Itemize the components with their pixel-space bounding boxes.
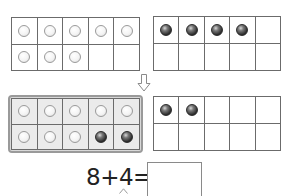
ten-frame-cell	[179, 17, 204, 44]
ten-frame-cell	[205, 17, 230, 44]
ten-frame-bottom-left-filled	[11, 98, 140, 150]
ten-frame-cell	[256, 97, 281, 124]
ten-frame-cell	[256, 44, 281, 71]
ten-frame-cell	[63, 18, 89, 45]
ten-frame-cell	[63, 45, 89, 72]
white-counter-icon	[69, 105, 81, 117]
ten-frame-cell	[179, 124, 204, 151]
white-counter-icon	[44, 25, 56, 37]
answer-input-box[interactable]	[147, 162, 202, 196]
ten-frame-cell	[114, 18, 140, 45]
white-counter-icon	[18, 105, 30, 117]
ten-frame-cell	[230, 17, 255, 44]
white-counter-icon	[44, 131, 56, 143]
ten-frame-cell	[38, 99, 64, 125]
ten-frame-cell	[89, 18, 115, 45]
equation-text: 8+4=	[86, 164, 152, 190]
dark-counter-icon	[211, 24, 223, 36]
ten-frame-cell	[114, 99, 140, 125]
ten-frame-cell	[205, 124, 230, 151]
ten-frame-cell	[179, 44, 204, 71]
white-counter-icon	[69, 25, 81, 37]
dark-counter-icon	[186, 104, 198, 116]
ten-frame-cell	[89, 99, 115, 125]
ten-frame-cell	[154, 17, 179, 44]
dark-counter-icon	[236, 24, 248, 36]
white-counter-icon	[18, 25, 30, 37]
down-arrow-icon	[137, 74, 151, 92]
dark-counter-icon	[160, 104, 172, 116]
ten-frame-cell	[256, 17, 281, 44]
dark-counter-icon	[95, 131, 107, 143]
ten-frame-cell	[154, 124, 179, 151]
white-counter-icon	[69, 51, 81, 63]
dark-counter-icon	[121, 131, 133, 143]
ten-frame-cell	[12, 45, 38, 72]
ten-frame-cell	[12, 99, 38, 125]
ten-frame-cell	[12, 18, 38, 45]
white-counter-icon	[121, 25, 133, 37]
ten-frame-cell	[230, 97, 255, 124]
ten-frame-cell	[63, 99, 89, 125]
ten-frame-cell	[89, 125, 115, 151]
ten-frame-cell	[114, 45, 140, 72]
white-counter-icon	[44, 105, 56, 117]
ten-frame-cell	[38, 125, 64, 151]
ten-frame-cell	[230, 44, 255, 71]
ten-frame-cell	[205, 44, 230, 71]
ten-frame-cell	[205, 97, 230, 124]
ten-frame-cell	[230, 124, 255, 151]
caret-icon	[119, 188, 128, 194]
white-counter-icon	[18, 51, 30, 63]
white-counter-icon	[121, 105, 133, 117]
ten-frame-cell	[38, 45, 64, 72]
white-counter-icon	[69, 131, 81, 143]
white-counter-icon	[95, 105, 107, 117]
ten-frame-cell	[114, 125, 140, 151]
ten-frame-cell	[89, 45, 115, 72]
ten-frame-cell	[154, 44, 179, 71]
ten-frame-cell	[63, 125, 89, 151]
ten-frame-cell	[38, 18, 64, 45]
white-counter-icon	[18, 131, 30, 143]
dark-counter-icon	[160, 24, 172, 36]
dark-counter-icon	[186, 24, 198, 36]
ten-frame-cell	[179, 97, 204, 124]
white-counter-icon	[95, 25, 107, 37]
ten-frame-top-right	[153, 16, 281, 71]
ten-frame-bottom-right	[153, 96, 281, 151]
white-counter-icon	[44, 51, 56, 63]
ten-frame-top-left	[11, 17, 140, 71]
ten-frame-cell	[12, 125, 38, 151]
ten-frame-cell	[154, 97, 179, 124]
ten-frame-cell	[256, 124, 281, 151]
